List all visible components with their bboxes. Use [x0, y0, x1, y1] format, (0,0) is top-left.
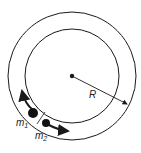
circular-track-diagram: R m1 m2 [0, 0, 141, 153]
radius-label: R [89, 89, 96, 100]
mass2-label: m2 [35, 130, 47, 142]
mass1-label: m1 [16, 117, 28, 129]
mass1-ball [28, 108, 38, 118]
mass2-ball [42, 119, 50, 127]
mass2-velocity-arrow [47, 124, 68, 131]
diagram-canvas: R m1 m2 [0, 0, 141, 153]
